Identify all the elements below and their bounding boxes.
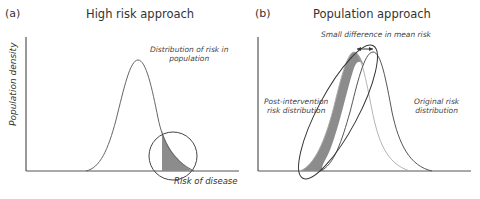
panel-b-annotation-right: Original risk distribution <box>414 97 459 115</box>
x-axis-label: Risk of disease <box>174 176 238 186</box>
annotation-line-1: Post-intervention <box>264 97 328 106</box>
panel-a-title: High risk approach <box>86 7 194 21</box>
y-axis-label: Population density <box>8 43 18 126</box>
panel-a-risk-curve <box>86 60 194 171</box>
annotation-line-2: risk distribution <box>264 106 328 115</box>
annotation-line-2: population <box>150 54 228 63</box>
panel-b-label: (b) <box>255 7 271 20</box>
panel-b-title: Population approach <box>313 7 431 21</box>
panel-a-annotation: Distribution of risk in population <box>150 45 228 63</box>
panel-a-label: (a) <box>5 7 20 20</box>
annotation-line-1: Distribution of risk in <box>150 45 228 54</box>
panel-b-annotation-top: Small difference in mean risk <box>321 30 431 39</box>
annotation-line-2: distribution <box>414 106 459 115</box>
panel-b-annotation-left: Post-intervention risk distribution <box>264 97 328 115</box>
annotation-line-1: Original risk <box>414 97 459 106</box>
